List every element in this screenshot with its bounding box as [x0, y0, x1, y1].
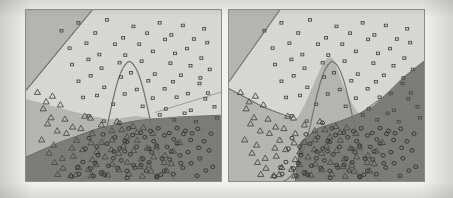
left-panel	[25, 9, 222, 182]
right-panel	[228, 9, 425, 182]
left-panel-plot	[26, 10, 221, 181]
figure-container	[0, 0, 453, 198]
right-panel-plot	[229, 10, 424, 181]
